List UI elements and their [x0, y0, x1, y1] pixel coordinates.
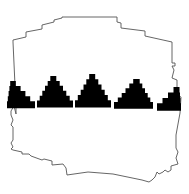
sherd-figure [0, 0, 189, 194]
